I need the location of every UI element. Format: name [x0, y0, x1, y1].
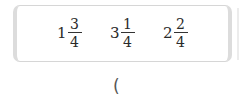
numerator: 3: [69, 17, 80, 31]
whole-part: 1: [57, 26, 67, 41]
whole-part: 3: [110, 26, 120, 41]
answer-open-paren: (: [113, 76, 120, 96]
edge-divider: [237, 8, 239, 60]
denominator: 4: [122, 35, 133, 49]
fraction-bar: [174, 32, 188, 33]
numerator: 1: [122, 17, 133, 31]
whole-part: 2: [163, 26, 173, 41]
mixed-number-3: 2 2 4: [163, 15, 188, 51]
fraction: 2 4: [174, 17, 188, 49]
fraction: 1 4: [121, 17, 135, 49]
denominator: 4: [175, 35, 186, 49]
denominator: 4: [69, 35, 80, 49]
mixed-number-2: 3 1 4: [110, 15, 135, 51]
fraction-bar: [68, 32, 82, 33]
numerator: 2: [175, 17, 186, 31]
fraction: 3 4: [68, 17, 82, 49]
mixed-number-1: 1 3 4: [57, 15, 82, 51]
fraction-bar: [121, 32, 135, 33]
